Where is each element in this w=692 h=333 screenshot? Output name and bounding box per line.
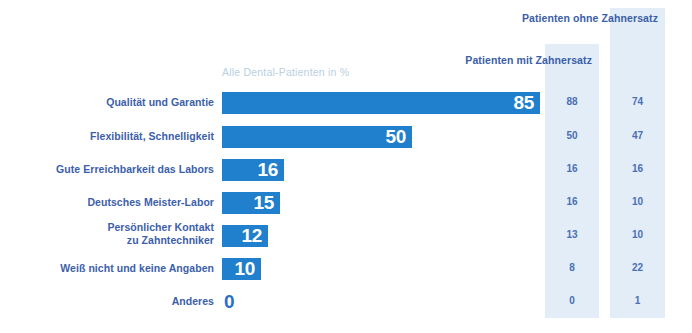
bar-wrapper: 10 [222,258,261,280]
bar-wrapper: 85 [222,92,540,114]
cell-patienten-mit: 8 [545,261,599,275]
cell-patienten-ohne: 1 [610,294,665,308]
cell-patienten-mit: 50 [545,129,599,143]
bar-value-label: 85 [513,91,534,114]
cell-patienten-ohne: 10 [610,228,665,242]
bar-row: Gute Erreichbarkeit das Labors161616 [0,159,692,193]
bar-row: Weiß nicht und keine Angaben10822 [0,258,692,292]
bar-wrapper: 50 [222,126,412,148]
bar-wrapper: 0 [222,291,223,313]
cell-patienten-mit: 16 [545,162,599,176]
cell-patienten-mit: 0 [545,294,599,308]
cell-patienten-ohne: 10 [610,195,665,209]
column-header-patienten-ohne: Patienten ohne Zahnersatz [500,11,658,25]
bar-wrapper: 12 [222,225,268,247]
bar-wrapper: 16 [222,159,284,181]
cell-patienten-ohne: 22 [610,261,665,275]
category-label: Weiß nicht und keine Angaben [4,262,214,275]
category-label: Persönlicher Kontakt zu Zahntechniker [4,221,214,246]
cell-patienten-ohne: 16 [610,162,665,176]
cell-patienten-mit: 13 [545,228,599,242]
bar-value-label: 16 [257,158,278,181]
cell-patienten-ohne: 47 [610,129,665,143]
bar[interactable] [222,126,412,148]
column-header-patienten-mit: Patienten mit Zahnersatz [440,53,592,67]
category-label: Anderes [4,295,214,308]
chart-container: Patienten mit Zahnersatz Patienten ohne … [0,0,692,333]
bar-wrapper: 15 [222,192,280,214]
cell-patienten-mit: 16 [545,195,599,209]
bar-row: Qualität und Garantie858874 [0,92,692,126]
cell-patienten-mit: 88 [545,95,599,109]
bar-row: Persönlicher Kontakt zu Zahntechniker121… [0,225,692,259]
bar-value-label: 50 [385,125,406,148]
chart-subtitle: Alle Dental-Patienten in % [222,66,349,78]
category-label: Gute Erreichbarkeit das Labors [4,163,214,176]
bar-value-label: 15 [253,191,274,214]
bar-value-label: 12 [241,224,262,247]
category-label: Flexibilität, Schnelligkeit [4,130,214,143]
cell-patienten-ohne: 74 [610,95,665,109]
category-label: Deutsches Meister-Labor [4,196,214,209]
bar-value-label: 10 [234,257,255,280]
bar-row: Flexibilität, Schnelligkeit505047 [0,126,692,160]
category-label: Qualität und Garantie [4,96,214,109]
bar-row: Anderes001 [0,291,692,325]
bar[interactable] [222,92,540,114]
bar-value-label: 0 [224,290,234,313]
